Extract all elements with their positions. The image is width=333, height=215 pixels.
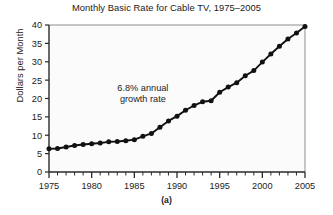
data-point-marker bbox=[217, 90, 222, 95]
y-tick-label: 0 bbox=[37, 167, 42, 177]
y-tick-label: 30 bbox=[32, 57, 42, 67]
data-point-marker bbox=[89, 141, 94, 146]
y-axis-ticks: 0510152025303540 bbox=[32, 20, 49, 177]
x-tick-label: 1985 bbox=[124, 181, 144, 191]
x-tick-label: 2000 bbox=[252, 181, 272, 191]
y-tick-label: 5 bbox=[37, 149, 42, 159]
data-point-marker bbox=[123, 138, 128, 143]
data-point-marker bbox=[303, 24, 308, 29]
data-point-marker bbox=[260, 60, 265, 65]
x-tick-label: 1995 bbox=[209, 181, 229, 191]
data-point-marker bbox=[251, 68, 256, 73]
x-tick-label: 2005 bbox=[295, 181, 315, 191]
data-point-marker bbox=[234, 80, 239, 85]
plot-background bbox=[49, 25, 305, 172]
data-point-marker bbox=[175, 114, 180, 119]
data-point-marker bbox=[285, 36, 290, 41]
y-tick-label: 20 bbox=[32, 94, 42, 104]
y-tick-label: 10 bbox=[32, 131, 42, 141]
growth-rate-annotation: 6.8% annualgrowth rate bbox=[117, 83, 168, 104]
data-point-marker bbox=[149, 131, 154, 136]
y-tick-label: 15 bbox=[32, 112, 42, 122]
data-point-marker bbox=[209, 98, 214, 103]
data-point-marker bbox=[226, 85, 231, 90]
line-chart-plot: 0510152025303540 19751980198519901995200… bbox=[0, 0, 333, 215]
data-point-marker bbox=[132, 137, 137, 142]
data-point-marker bbox=[166, 118, 171, 123]
data-point-marker bbox=[55, 146, 60, 151]
y-tick-label: 35 bbox=[32, 39, 42, 49]
annotation-line-2: growth rate bbox=[120, 94, 166, 104]
data-point-marker bbox=[268, 52, 273, 57]
data-point-marker bbox=[140, 134, 145, 139]
x-axis-ticks: 1975198019851990199520002005 bbox=[39, 172, 315, 191]
annotation-line-1: 6.8% annual bbox=[117, 83, 168, 93]
data-point-marker bbox=[192, 103, 197, 108]
data-point-marker bbox=[106, 139, 111, 144]
x-tick-label: 1980 bbox=[81, 181, 101, 191]
x-tick-label: 1975 bbox=[39, 181, 59, 191]
figure-cable-tv-rate: Monthly Basic Rate for Cable TV, 1975–20… bbox=[0, 0, 333, 215]
y-tick-label: 40 bbox=[32, 20, 42, 30]
data-point-marker bbox=[200, 99, 205, 104]
figure-caption: (a) bbox=[0, 195, 333, 205]
data-point-marker bbox=[81, 142, 86, 147]
data-point-marker bbox=[98, 140, 103, 145]
data-point-marker bbox=[47, 146, 52, 151]
data-point-marker bbox=[157, 125, 162, 130]
x-tick-label: 1990 bbox=[167, 181, 187, 191]
data-point-marker bbox=[294, 31, 299, 36]
data-point-marker bbox=[72, 143, 77, 148]
data-point-marker bbox=[64, 145, 69, 150]
data-point-marker bbox=[277, 44, 282, 49]
y-tick-label: 25 bbox=[32, 76, 42, 86]
data-point-marker bbox=[183, 108, 188, 113]
data-point-marker bbox=[115, 139, 120, 144]
data-point-marker bbox=[243, 73, 248, 78]
